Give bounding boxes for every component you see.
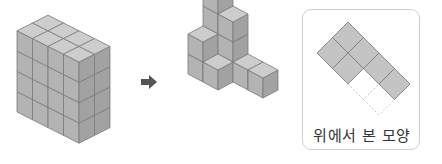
cube-structure [188,0,278,98]
cube-block-4x2x4 [17,15,110,143]
right-arrow-icon [141,75,157,89]
top-view-label: 위에서 본 모양 [302,124,422,145]
